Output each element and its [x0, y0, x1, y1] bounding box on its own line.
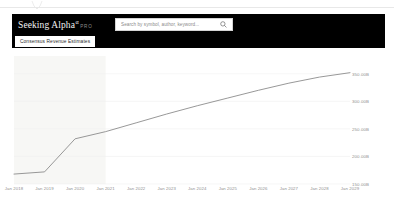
site-header: Seeking Alpha α PRO Search by symbol, au…	[12, 14, 385, 35]
search-placeholder: Search by symbol, author, keyword...	[121, 22, 220, 27]
brand-alpha-glyph: α	[75, 19, 78, 25]
y-axis-tick: 350.00B	[352, 71, 369, 76]
search-icon[interactable]	[220, 21, 227, 28]
tab-label: Consensus Revenue Estimates	[20, 39, 90, 44]
consensus-revenue-chart[interactable]: 350.00B300.00B250.00B200.00B150.00B Jan …	[12, 56, 386, 206]
x-axis-tick: Jan 2023	[158, 186, 176, 191]
x-axis-tick: Jan 2029	[341, 186, 359, 191]
cursor-artifact	[30, 0, 44, 12]
x-axis-tick: Jan 2022	[127, 186, 145, 191]
x-axis-tick: Jan 2024	[188, 186, 206, 191]
x-axis-tick: Jan 2028	[310, 186, 328, 191]
x-axis-tick: Jan 2025	[219, 186, 237, 191]
y-axis-tick: 200.00B	[352, 154, 369, 159]
brand-pro-label: PRO	[80, 24, 93, 29]
tab-consensus-revenue-estimates[interactable]: Consensus Revenue Estimates	[15, 36, 95, 47]
x-axis-tick: Jan 2027	[280, 186, 298, 191]
y-axis-tick: 250.00B	[352, 126, 369, 131]
x-axis-tick: Jan 2026	[249, 186, 267, 191]
brand-name: Seeking Alpha	[18, 20, 75, 30]
seeking-alpha-logo[interactable]: Seeking Alpha α PRO	[18, 20, 93, 30]
x-axis-tick: Jan 2021	[96, 186, 114, 191]
chart-plot-area	[12, 56, 386, 206]
y-axis-tick: 300.00B	[352, 99, 369, 104]
x-axis-labels: Jan 2018Jan 2019Jan 2020Jan 2021Jan 2022…	[12, 186, 386, 200]
shaded-actuals-band	[14, 56, 106, 184]
y-axis-labels: 350.00B300.00B250.00B200.00B150.00B	[352, 56, 392, 188]
top-divider	[0, 7, 394, 8]
subheader-bar: Consensus Revenue Estimates	[12, 35, 385, 48]
search-input[interactable]: Search by symbol, author, keyword...	[115, 18, 233, 31]
x-axis-tick: Jan 2018	[5, 186, 23, 191]
x-axis-tick: Jan 2020	[66, 186, 84, 191]
x-axis-tick: Jan 2019	[35, 186, 53, 191]
